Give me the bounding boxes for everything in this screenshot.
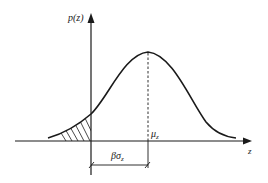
beta-sigma-label: βσz [110, 150, 124, 163]
probability-density-curve [48, 52, 236, 138]
y-axis [88, 13, 95, 175]
y-axis-label: p(z) [67, 12, 84, 24]
x-axis-arrow-icon [243, 138, 252, 145]
y-axis-arrow-icon [88, 13, 95, 23]
normal-distribution-diagram: p(z) z μz βσz [0, 0, 268, 183]
x-axis [15, 138, 252, 145]
beta-sigma-bracket [89, 162, 150, 168]
mean-label: μz [150, 128, 159, 141]
x-axis-label: z [247, 146, 252, 156]
failure-region-hatching [58, 116, 96, 141]
